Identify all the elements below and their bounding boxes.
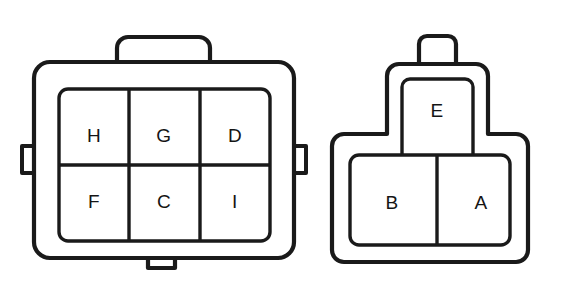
- left-connector-cavity-f-label: F: [88, 191, 100, 212]
- right-connector-top-latch-tab: [419, 36, 456, 65]
- right-connector-cavity-a-label: A: [474, 192, 487, 213]
- left-connector-cavity-h-label: H: [87, 125, 101, 146]
- left-connector-cavity-c-label: C: [157, 191, 171, 212]
- right-connector-group[interactable]: E B A: [332, 36, 528, 262]
- right-connector-cavity-e-label: E: [430, 100, 443, 121]
- left-connector-group[interactable]: H G D F C I: [22, 37, 306, 268]
- left-connector-cavity-d-label: D: [228, 125, 242, 146]
- connector-diagram-canvas: H G D F C I E B A: [0, 0, 568, 283]
- left-connector-cavity-i-label: I: [232, 191, 238, 212]
- connector-diagram-root: H G D F C I E B A: [0, 0, 568, 283]
- left-connector-cavity-g-label: G: [156, 125, 171, 146]
- right-connector-cavity-b-label: B: [385, 192, 398, 213]
